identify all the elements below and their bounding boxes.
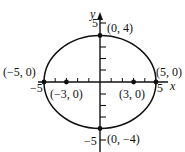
point-covertex-top xyxy=(98,33,103,38)
label-vertex-right: (5, 0) xyxy=(156,65,182,79)
y-tick-label-pos: 5 xyxy=(92,16,98,30)
label-focus-right: (3, 0) xyxy=(119,87,145,101)
y-tick-label-neg: −5 xyxy=(84,134,97,148)
ellipse-diagram: y x 5 −5 −5 5 (0, 4) (0, −4) (−5, 0) (5,… xyxy=(0,0,185,152)
label-focus-left: (−3, 0) xyxy=(50,87,83,101)
point-focus-left xyxy=(64,80,69,85)
x-tick-label-pos: 5 xyxy=(157,81,163,95)
ellipse-plot: y x 5 −5 −5 5 (0, 4) (0, −4) (−5, 0) (5,… xyxy=(0,0,185,152)
x-axis-label: x xyxy=(169,79,176,93)
label-vertex-left: (−5, 0) xyxy=(3,65,36,79)
label-covertex-bottom: (0, −4) xyxy=(107,132,140,146)
label-covertex-top: (0, 4) xyxy=(107,21,133,35)
point-covertex-bottom xyxy=(98,126,103,131)
point-focus-right xyxy=(131,80,136,85)
x-tick-label-neg: −5 xyxy=(30,81,43,95)
